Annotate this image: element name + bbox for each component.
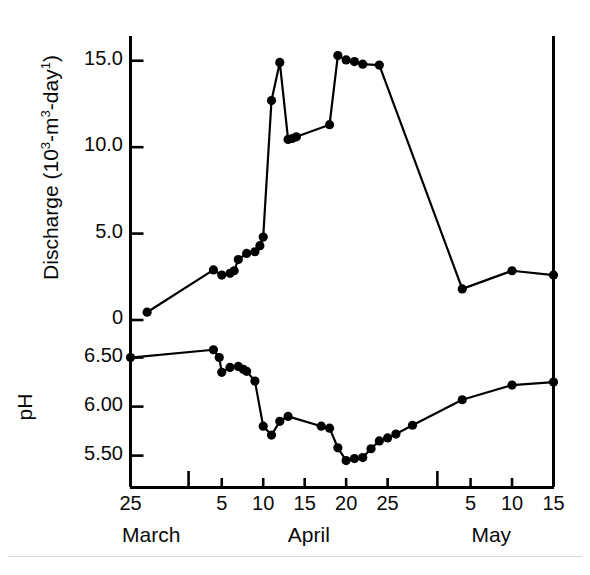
discharge-point-8 xyxy=(255,241,264,250)
discharge-tick-label-2: 5.0 xyxy=(40,220,123,243)
figure-container: Discharge (103-m3-day1) pH 15.010.05.00 … xyxy=(0,0,590,575)
ph-point-2 xyxy=(215,353,224,362)
month-label-april: April xyxy=(259,523,359,547)
x-tick-label-10: 15 xyxy=(529,492,579,515)
ph-point-17 xyxy=(350,454,359,463)
discharge-point-4 xyxy=(230,266,239,275)
bottom-divider xyxy=(8,556,582,557)
ph-point-15 xyxy=(333,443,342,452)
ph-point-0 xyxy=(126,353,135,362)
discharge-point-11 xyxy=(275,58,284,67)
discharge-tick-label-3: 0 xyxy=(40,306,123,329)
discharge-point-1 xyxy=(209,265,218,274)
discharge-axis-title: Discharge (103-m3-day1) xyxy=(38,43,63,293)
discharge-point-9 xyxy=(259,232,268,241)
discharge-axis-title-end: -day xyxy=(39,69,62,110)
ph-point-11 xyxy=(275,417,284,426)
ph-point-12 xyxy=(283,412,292,421)
ph-series xyxy=(126,345,558,465)
ph-point-7 xyxy=(242,367,251,376)
discharge-point-2 xyxy=(217,270,226,279)
x-tick-label-0: 25 xyxy=(106,492,156,515)
discharge-point-5 xyxy=(234,255,243,264)
discharge-axis-title-sup-2: 3 xyxy=(38,110,53,117)
discharge-axis-title-text: Discharge (10 xyxy=(39,149,62,280)
discharge-point-15 xyxy=(325,120,334,129)
discharge-point-21 xyxy=(458,284,467,293)
ph-point-3 xyxy=(217,368,226,377)
ph-point-19 xyxy=(366,444,375,453)
ph-point-24 xyxy=(458,395,467,404)
discharge-point-23 xyxy=(549,270,558,279)
discharge-point-0 xyxy=(142,308,151,317)
ph-point-20 xyxy=(375,436,384,445)
ph-line xyxy=(131,350,554,461)
ph-axis-title: pH xyxy=(13,377,37,437)
discharge-point-19 xyxy=(358,60,367,69)
discharge-point-22 xyxy=(507,266,516,275)
discharge-series xyxy=(142,51,558,317)
discharge-line xyxy=(147,56,553,313)
ph-point-14 xyxy=(325,424,334,433)
discharge-point-10 xyxy=(267,96,276,105)
ph-tick-label-0: 6.50 xyxy=(36,344,123,367)
x-tick-label-6: 25 xyxy=(363,492,413,515)
ph-point-25 xyxy=(507,380,516,389)
x-axis-ticks xyxy=(131,471,554,487)
month-label-march: March xyxy=(101,523,201,547)
ph-point-8 xyxy=(250,377,259,386)
ph-point-10 xyxy=(267,430,276,439)
discharge-y-ticks xyxy=(131,61,144,320)
ph-point-23 xyxy=(408,421,417,430)
ph-y-ticks xyxy=(131,358,144,456)
ph-tick-label-1: 6.00 xyxy=(36,393,123,416)
ph-point-26 xyxy=(549,377,558,386)
discharge-point-17 xyxy=(342,55,351,64)
ph-markers xyxy=(126,345,558,465)
discharge-point-18 xyxy=(350,57,359,66)
axis-lines xyxy=(130,36,554,488)
ph-point-9 xyxy=(259,422,268,431)
ph-point-21 xyxy=(383,433,392,442)
discharge-point-6 xyxy=(242,249,251,258)
discharge-point-16 xyxy=(333,51,342,60)
chart-canvas xyxy=(0,0,590,575)
ph-point-1 xyxy=(209,345,218,354)
ph-point-13 xyxy=(317,422,326,431)
ph-point-22 xyxy=(391,429,400,438)
discharge-point-14 xyxy=(292,132,301,141)
month-label-may: May xyxy=(441,523,541,547)
ph-point-18 xyxy=(358,453,367,462)
ph-point-16 xyxy=(342,456,351,465)
discharge-tick-label-1: 10.0 xyxy=(40,133,123,156)
ph-point-4 xyxy=(225,363,234,372)
discharge-tick-label-0: 15.0 xyxy=(40,47,123,70)
discharge-point-20 xyxy=(375,60,384,69)
ph-tick-label-2: 5.50 xyxy=(36,442,123,465)
